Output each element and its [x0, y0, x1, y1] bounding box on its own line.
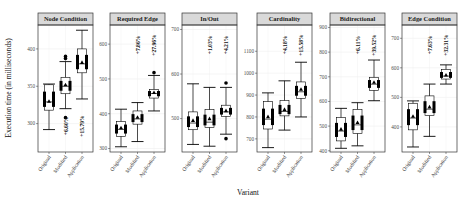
facet-title: Node Condition — [44, 15, 88, 22]
outlier-point — [152, 71, 156, 75]
facet-title: In/Out — [200, 15, 219, 22]
y-tick-label: 400 — [319, 148, 327, 154]
percent-change-label: +4.21% — [223, 35, 229, 54]
percent-change-label: +6.11% — [355, 35, 361, 54]
facets-group: Node Condition300350400+6.60%+15.79%Orig… — [27, 13, 457, 178]
ci-band-right — [416, 109, 419, 125]
y-tick-label: 600 — [391, 65, 399, 71]
x-tick-label: Original — [256, 154, 272, 173]
x-tick-label: Modified — [52, 154, 69, 174]
y-tick-label: 400 — [391, 124, 399, 130]
ci-band-left — [187, 116, 190, 127]
ci-band-left — [60, 81, 63, 91]
percent-change-label: +6.60% — [63, 116, 69, 135]
percent-change-label: +39.52% — [371, 34, 377, 56]
ci-band-left — [335, 123, 338, 137]
y-tick-label: 800 — [246, 114, 254, 120]
y-axis-title: Execution time (in milliseconds) — [4, 38, 13, 138]
x-tick-label: Modified — [196, 154, 213, 174]
ci-band-right — [304, 86, 307, 96]
x-tick-label: Modified — [124, 154, 141, 174]
ci-band-right — [85, 55, 88, 69]
facet-title: Bidirectional — [340, 15, 376, 22]
ci-band-right — [196, 116, 199, 127]
ci-band-left — [279, 105, 282, 114]
y-tick-label: 900 — [246, 92, 254, 98]
y-tick-label: 700 — [391, 35, 399, 41]
percent-change-label: +4.18% — [282, 35, 288, 54]
percent-change-label: +7.63% — [427, 35, 433, 54]
ci-band-left — [407, 109, 410, 125]
ci-band-right — [213, 115, 216, 126]
percent-change-label: +15.58% — [298, 34, 304, 56]
ci-band-right — [449, 72, 452, 78]
y-tick-label: 500 — [319, 123, 327, 129]
outlier-point — [224, 137, 228, 141]
x-tick-label: Original — [109, 154, 125, 173]
ci-band-left — [262, 109, 265, 125]
x-tick-label: Original — [401, 154, 417, 173]
y-tick-label: 1100 — [244, 48, 255, 54]
y-tick-label: 300 — [27, 120, 35, 126]
y-tick-label: 700 — [319, 74, 327, 80]
facet-panel: Bidirectional400500600700800900+6.11%+39… — [319, 13, 385, 178]
x-tick-label: Modified — [271, 154, 288, 174]
y-tick-label: 500 — [391, 94, 399, 100]
faceted-boxplot-chart: Node Condition300350400+6.60%+15.79%Orig… — [0, 0, 473, 207]
ci-band-left — [440, 72, 443, 78]
facet-title: Edge Condition — [408, 15, 451, 22]
outlier-point — [64, 55, 68, 59]
y-tick-label: 500 — [99, 76, 107, 82]
y-tick-label: 600 — [99, 41, 107, 47]
ci-band-left — [43, 92, 46, 107]
ci-band-right — [271, 109, 274, 125]
ci-band-left — [132, 114, 135, 122]
percent-change-label: +15.79% — [79, 115, 85, 137]
ci-band-left — [295, 86, 298, 96]
facet-panel: Required Edge300400500600+7.86%+27.96%Or… — [99, 13, 165, 178]
ci-band-right — [141, 114, 144, 122]
ci-band-right — [69, 81, 72, 91]
ci-band-right — [229, 108, 232, 115]
x-tick-label: Original — [37, 154, 53, 173]
y-tick-label: 700 — [246, 136, 254, 142]
facet-panel: Node Condition300350400+6.60%+15.79%Orig… — [27, 13, 93, 178]
facet-panel: Edge Condition400500600700+7.63%+32.31%O… — [391, 13, 457, 178]
percent-change-label: +1.03% — [207, 35, 213, 54]
ci-band-left — [204, 115, 207, 126]
y-tick-label: 1000 — [244, 70, 255, 76]
x-tick-label: Modified — [344, 154, 361, 174]
y-tick-label: 700 — [171, 26, 179, 32]
outlier-point — [224, 81, 228, 85]
ci-band-right — [52, 92, 55, 107]
x-tick-label: Original — [329, 154, 345, 173]
y-tick-label: 900 — [319, 24, 327, 30]
y-tick-label: 500 — [171, 115, 179, 121]
y-tick-label: 600 — [171, 71, 179, 77]
x-tick-label: Modified — [416, 154, 433, 174]
facet-panel: In/Out500600700+1.03%+4.21%OriginalModif… — [171, 13, 237, 178]
ci-band-right — [344, 123, 347, 137]
ci-band-left — [352, 116, 355, 131]
y-tick-label: 300 — [99, 145, 107, 151]
ci-band-left — [76, 55, 79, 69]
percent-change-label: +27.96% — [151, 34, 157, 56]
facet-title: Cardinality — [269, 15, 301, 22]
y-tick-label: 600 — [319, 98, 327, 104]
x-tick-label: Original — [181, 154, 197, 173]
ci-band-left — [220, 108, 223, 115]
ci-band-left — [424, 101, 427, 113]
y-tick-label: 350 — [27, 83, 35, 89]
ci-band-right — [433, 101, 436, 113]
percent-change-label: +7.86% — [135, 35, 141, 54]
y-tick-label: 800 — [319, 49, 327, 55]
x-axis-title: Variant — [237, 188, 260, 197]
y-tick-label: 400 — [27, 46, 35, 52]
ci-band-right — [361, 116, 364, 131]
percent-change-label: +32.31% — [443, 34, 449, 56]
y-tick-label: 400 — [99, 111, 107, 117]
facet-title: Required Edge — [117, 15, 158, 22]
ci-band-right — [288, 105, 291, 114]
facet-panel: Cardinality70080090010001100+4.18%+15.58… — [244, 13, 312, 178]
